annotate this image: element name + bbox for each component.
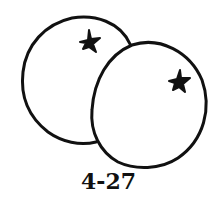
back-orange-stem-icon xyxy=(80,30,100,52)
back-orange xyxy=(22,17,130,144)
front-orange-stem-icon xyxy=(169,70,190,92)
front-orange xyxy=(92,42,206,167)
figure-label: 4-27 xyxy=(0,170,217,192)
